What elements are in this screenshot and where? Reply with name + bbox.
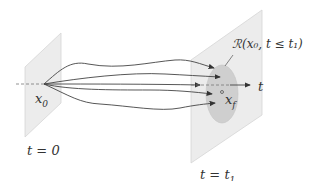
- final-time-label: t = t1: [200, 168, 235, 181]
- trajectory-4: [44, 84, 212, 94]
- initial-plane: [25, 33, 61, 137]
- initial-time-label: t = 0: [27, 143, 60, 158]
- trajectory-3: [44, 84, 200, 85]
- start-state-label: x0: [35, 91, 48, 109]
- final-time-text: t = t: [200, 167, 230, 181]
- reachable-set-label: ℛ(x₀, t ≤ t₁): [232, 37, 303, 51]
- target-state-label: xf: [225, 92, 236, 110]
- target-state-sub: f: [232, 100, 235, 110]
- start-state-sub: 0: [42, 99, 48, 109]
- time-axis-label: t: [258, 79, 263, 94]
- final-time-sub: 1: [230, 175, 236, 181]
